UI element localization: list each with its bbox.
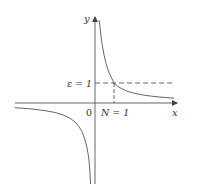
n-label: N = 1 <box>100 107 129 118</box>
epsilon-n-diagram: y x 0 ε = 1 N = 1 <box>0 0 199 191</box>
epsilon-label: ε = 1 <box>67 78 92 89</box>
curve-right-branch <box>99 20 174 98</box>
x-axis-label: x <box>172 107 178 118</box>
origin-label: 0 <box>86 107 92 118</box>
curve-left-branch <box>15 108 91 184</box>
y-axis-label: y <box>83 13 90 24</box>
